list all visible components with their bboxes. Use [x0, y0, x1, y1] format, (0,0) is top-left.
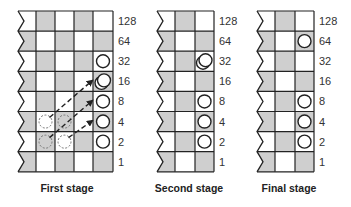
grid-cell	[195, 11, 214, 31]
grid-cell	[195, 71, 214, 91]
grid-cell	[175, 51, 195, 71]
grid-cell	[195, 152, 214, 172]
grid-cell	[55, 152, 74, 172]
first-stage-panel: 1286432168421First stage	[18, 11, 136, 194]
grid-cell	[275, 51, 295, 71]
row-value-label: 1	[219, 156, 225, 168]
grid-cell	[18, 112, 36, 132]
grid-cell	[18, 51, 36, 71]
grid-cell	[74, 132, 93, 152]
grid-cell	[74, 51, 93, 71]
grid-cell	[175, 132, 195, 152]
row-value-label: 128	[319, 15, 337, 27]
grid-cell	[74, 11, 93, 31]
grid-cell	[257, 11, 275, 31]
grid-cell	[257, 112, 275, 132]
grid-cell	[157, 112, 175, 132]
grid-cell	[257, 91, 275, 111]
row-value-label: 32	[118, 55, 130, 67]
grid-cell	[36, 11, 55, 31]
bead-icon	[298, 135, 311, 148]
grid-cell	[257, 51, 275, 71]
grid-cell	[55, 91, 74, 111]
grid-cell	[275, 132, 295, 152]
grid-cell	[36, 152, 55, 172]
grid-cell	[275, 31, 295, 51]
grid-cell	[18, 132, 36, 152]
row-value-label: 4	[118, 116, 124, 128]
bead-icon	[199, 54, 212, 67]
grid-cell	[175, 11, 195, 31]
grid-cell	[175, 71, 195, 91]
final-stage-panel: 1286432168421Final stage	[257, 11, 337, 194]
row-value-label: 64	[319, 35, 331, 47]
grid-cell	[275, 112, 295, 132]
row-value-label: 4	[219, 116, 225, 128]
row-value-label: 32	[319, 55, 331, 67]
grid-cell	[157, 71, 175, 91]
bead-icon	[298, 35, 311, 48]
row-value-label: 8	[219, 95, 225, 107]
grid-cell	[36, 31, 55, 51]
bead-icon	[97, 135, 110, 148]
bead-icon	[198, 115, 211, 128]
stage-caption: Final stage	[262, 182, 317, 194]
bead-icon	[97, 55, 110, 68]
grid-cell	[157, 152, 175, 172]
grid-cell	[275, 11, 295, 31]
grid-cell	[18, 91, 36, 111]
row-value-label: 2	[219, 136, 225, 148]
row-value-label: 2	[118, 136, 124, 148]
row-value-label: 16	[118, 75, 130, 87]
grid-cell	[157, 11, 175, 31]
bead-icon	[97, 115, 110, 128]
row-value-label: 128	[118, 15, 136, 27]
grid-cell	[275, 71, 295, 91]
row-value-label: 16	[319, 75, 331, 87]
bead-icon	[98, 74, 111, 87]
grid-cell	[257, 152, 275, 172]
grid-cell	[157, 132, 175, 152]
row-value-label: 2	[319, 136, 325, 148]
second-stage-panel: 1286432168421Second stage	[155, 11, 238, 194]
grid-cell	[295, 51, 314, 71]
grid-cell	[295, 11, 314, 31]
grid-cell	[175, 112, 195, 132]
row-value-label: 64	[118, 35, 130, 47]
grid-cell	[275, 152, 295, 172]
grid-cell	[55, 31, 74, 51]
grid-cell	[275, 91, 295, 111]
stage-caption: First stage	[40, 182, 93, 194]
grid-cell	[175, 91, 195, 111]
grid-cell	[55, 71, 74, 91]
grid-cell	[93, 11, 113, 31]
stage-caption: Second stage	[155, 182, 223, 194]
grid-cell	[55, 51, 74, 71]
grid-cell	[55, 11, 74, 31]
grid-cell	[157, 91, 175, 111]
row-value-label: 8	[319, 95, 325, 107]
grid-cell	[74, 152, 93, 172]
bead-icon	[298, 95, 311, 108]
grid-cell	[18, 11, 36, 31]
grid-cell	[257, 31, 275, 51]
bead-icon	[298, 115, 311, 128]
grid-cell	[175, 31, 195, 51]
grid-cell	[157, 31, 175, 51]
row-value-label: 1	[118, 156, 124, 168]
grid-cell	[18, 71, 36, 91]
grid-cell	[36, 91, 55, 111]
row-value-label: 16	[219, 75, 231, 87]
row-value-label: 64	[219, 35, 231, 47]
bead-icon	[198, 95, 211, 108]
grid-cell	[93, 152, 113, 172]
bead-icon	[198, 135, 211, 148]
grid-cell	[257, 71, 275, 91]
grid-cell	[18, 31, 36, 51]
bead-icon	[97, 95, 110, 108]
grid-cell	[74, 31, 93, 51]
grid-cell	[175, 152, 195, 172]
grid-cell	[257, 132, 275, 152]
grid-cell	[18, 152, 36, 172]
row-value-label: 128	[219, 15, 237, 27]
